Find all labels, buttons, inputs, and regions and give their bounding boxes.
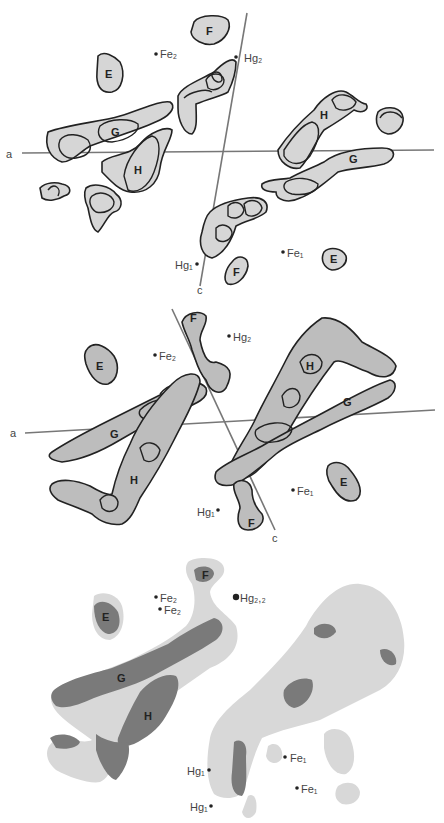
helix-central-bottom — [200, 198, 267, 258]
label-F-bottom: F — [248, 517, 255, 529]
atom-fe2-a: Fe₂ — [160, 592, 177, 604]
atom-fe1: Fe₁ — [287, 247, 304, 259]
label-E-bottom: E — [330, 253, 337, 265]
atom-fe1-b: Fe₁ — [301, 783, 318, 795]
atom-fe1: Fe₁ — [297, 485, 314, 497]
label-G-right: G — [343, 396, 352, 408]
panel-2: a c E F G H H G F E Fe₂ Hg₂ — [10, 309, 435, 544]
panel-3: E F G H Fe₂ Fe₂ Hg₂,₂ Fe₁ Fe₁ Hg₁ Hg₁ — [47, 558, 404, 818]
label-H-left: H — [134, 164, 142, 176]
axis-a-label: a — [10, 427, 17, 439]
atom-fe2: Fe₂ — [160, 48, 177, 60]
label-G-right: G — [349, 153, 358, 165]
atom-hg22: Hg₂,₂ — [240, 592, 266, 604]
atom-hg2: Hg₂ — [244, 52, 262, 64]
atom-hg1: Hg₁ — [175, 259, 193, 271]
atom-fe2-b: Fe₂ — [164, 604, 181, 616]
label-E-left: E — [96, 360, 103, 372]
label-H: H — [144, 710, 152, 722]
label-E-right: E — [340, 476, 347, 488]
figure: a c F E G H H — [0, 0, 444, 823]
label-H-left: H — [130, 474, 138, 486]
axis-c-label: c — [197, 284, 203, 296]
axis-c-label: c — [272, 532, 278, 544]
label-H-right: H — [306, 360, 314, 372]
atom-hg1: Hg₁ — [197, 506, 215, 518]
label-G-left: G — [110, 428, 119, 440]
atom-fe2: Fe₂ — [159, 350, 176, 362]
label-F-top: F — [190, 312, 197, 324]
label-F: F — [202, 569, 209, 581]
axis-a — [25, 410, 435, 433]
atom-hg1-a: Hg₁ — [187, 765, 205, 777]
atom-fe1-a: Fe₁ — [290, 752, 307, 764]
label-H-right: H — [320, 109, 328, 121]
atom-hg1-b: Hg₁ — [190, 801, 208, 813]
label-G: G — [117, 672, 126, 684]
label-E-left: E — [105, 68, 112, 80]
panel-1: a c F E G H H — [6, 13, 434, 296]
label-F-bottom: F — [233, 266, 240, 278]
atom-hg2: Hg₂ — [233, 331, 251, 343]
label-F-top: F — [206, 25, 213, 37]
label-G-left: G — [111, 126, 120, 138]
label-E: E — [102, 611, 109, 623]
axis-a-label: a — [6, 148, 13, 160]
